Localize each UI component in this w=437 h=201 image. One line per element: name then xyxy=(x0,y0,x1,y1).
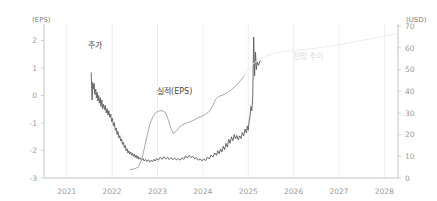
right-tick-10: 10 xyxy=(405,152,415,161)
right-axis-unit-label: (USD) xyxy=(406,16,427,24)
stock-price-label: 주가 xyxy=(88,41,103,50)
series-paths-group xyxy=(91,34,396,170)
eps-actual-label: 실적(EPS) xyxy=(157,86,192,96)
left-tick--3: -3 xyxy=(30,174,38,183)
left-tick-2: 2 xyxy=(32,36,37,45)
dual-axis-line-chart: 20212022202320242025202620272028 210-1-2… xyxy=(0,0,437,201)
chart-container: 20212022202320242025202620272028 210-1-2… xyxy=(0,0,437,201)
left-tick--1: -1 xyxy=(30,119,38,128)
forecast-trend-label: 전망 추이 xyxy=(293,51,324,61)
right-tick-50: 50 xyxy=(405,65,415,74)
right-tick-40: 40 xyxy=(405,87,415,96)
x-tick-2023: 2023 xyxy=(148,187,167,196)
left-tick-0: 0 xyxy=(32,91,37,100)
right-tick-30: 30 xyxy=(405,109,415,118)
right-tick-60: 60 xyxy=(405,44,415,53)
right-axis-tick-labels-group: 706050403020100 xyxy=(398,22,415,183)
left-tick--2: -2 xyxy=(30,146,38,155)
x-tick-2027: 2027 xyxy=(329,187,348,196)
x-tick-2024: 2024 xyxy=(193,187,212,196)
left-axis-tick-labels-group: 210-1-2-3 xyxy=(30,36,44,183)
x-tick-2021: 2021 xyxy=(57,187,76,196)
annotations-group: 주가실적(EPS)전망 추이 xyxy=(88,41,324,96)
grid-vertical-group xyxy=(67,24,385,178)
x-tick-2022: 2022 xyxy=(103,187,122,196)
left-tick-1: 1 xyxy=(32,64,37,73)
x-tick-labels-group: 20212022202320242025202620272028 xyxy=(57,187,394,196)
series-line-stock_price xyxy=(91,37,260,162)
right-tick-0: 0 xyxy=(405,174,410,183)
left-axis-unit-label: (EPS) xyxy=(32,16,51,24)
x-tick-2025: 2025 xyxy=(239,187,258,196)
x-tick-2026: 2026 xyxy=(284,187,303,196)
right-tick-20: 20 xyxy=(405,130,415,139)
x-tick-2028: 2028 xyxy=(375,187,394,196)
